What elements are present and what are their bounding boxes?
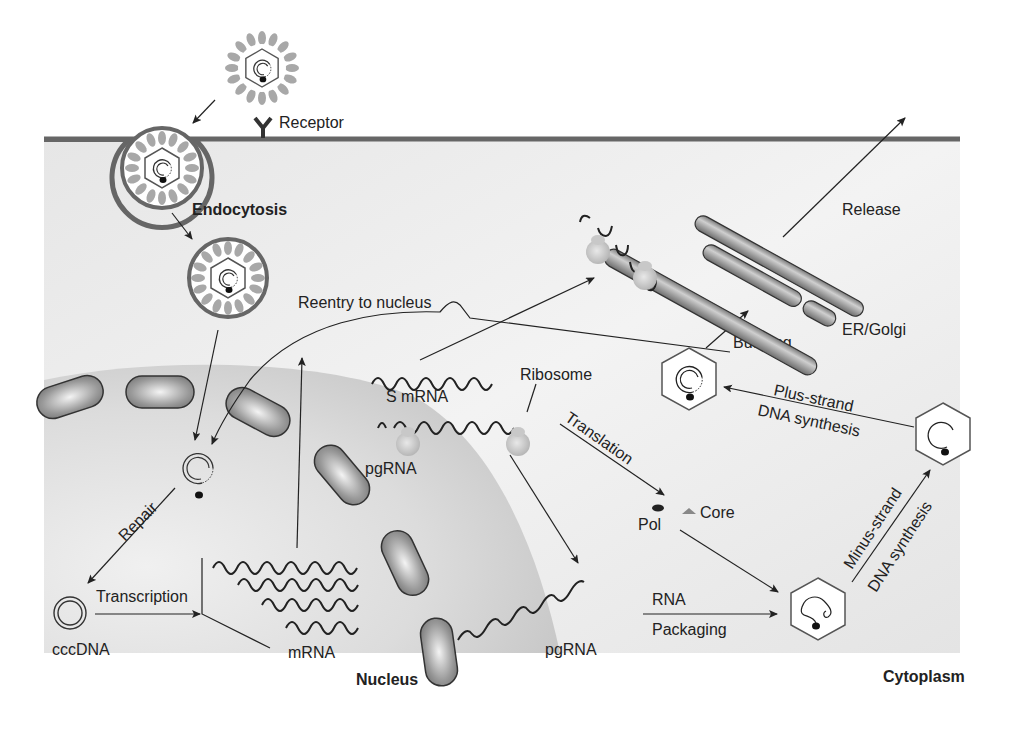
- core-label: Core: [700, 504, 735, 521]
- pol-icon: [652, 505, 664, 512]
- pol-label: Pol: [638, 516, 661, 533]
- release-label: Release: [842, 201, 901, 218]
- ribosome-label: Ribosome: [520, 366, 592, 383]
- pgrna-bottom-label: pgRNA: [545, 641, 597, 658]
- receptor-icon: [255, 118, 271, 138]
- virion-endosome: [189, 239, 267, 317]
- hbv-lifecycle-diagram: Receptor Endocytosis Reentry to nucleus …: [0, 0, 1030, 743]
- rna-packaging-label-2: Packaging: [652, 621, 727, 638]
- s-mrna-label: S mRNA: [386, 388, 449, 405]
- virion-free: [225, 31, 299, 105]
- endocytosis-label: Endocytosis: [192, 201, 287, 218]
- receptor-label: Receptor: [279, 114, 345, 131]
- mrna-label: mRNA: [288, 644, 335, 661]
- er-golgi-label: ER/Golgi: [842, 321, 906, 338]
- nucleus-label: Nucleus: [356, 671, 418, 688]
- virion-entering: [122, 128, 202, 208]
- reentry-label: Reentry to nucleus: [298, 294, 431, 311]
- rna-packaging-label-1: RNA: [652, 591, 686, 608]
- pgrna-top-label: pgRNA: [365, 460, 417, 477]
- cccdna-label: cccDNA: [52, 641, 110, 658]
- cytoplasm-label: Cytoplasm: [883, 668, 965, 685]
- transcription-label: Transcription: [96, 588, 188, 605]
